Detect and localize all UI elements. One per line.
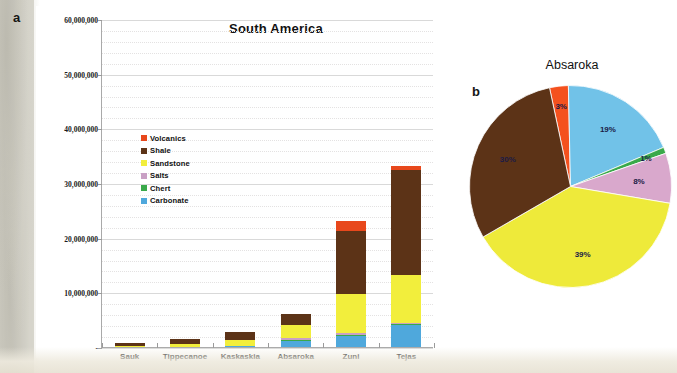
- y-axis-tick-mark: [98, 348, 102, 349]
- y-axis-tick-label: 20,000,000: [36, 235, 98, 244]
- legend-item-salts[interactable]: Salts: [141, 170, 190, 183]
- pie-slice-percent-carbonate: 19%: [600, 124, 616, 133]
- bar-segment-carbonate: [391, 325, 421, 347]
- x-axis-label-tejas: Tejas: [379, 352, 434, 361]
- y-axis-tick-label: -: [36, 344, 98, 353]
- legend-swatch-icon: [141, 160, 147, 166]
- pie-slice-percent-salts: 8%: [633, 176, 645, 185]
- bar-segment-shale: [281, 314, 311, 325]
- bar-chart-legend: VolcanicsShaleSandstoneSaltsChertCarbona…: [141, 132, 190, 207]
- x-axis-tick-mark: [213, 343, 214, 348]
- x-axis-label-zuni: Zuni: [323, 352, 378, 361]
- bar-column[interactable]: [336, 221, 366, 347]
- pie-chart-panel: Absaroka 3%19%1%8%39%30%: [442, 56, 677, 316]
- legend-label: Salts: [150, 171, 169, 180]
- pie-chart: 3%19%1%8%39%30%: [468, 84, 673, 289]
- x-axis-tick-mark: [268, 343, 269, 348]
- bar-segment-sandstone: [115, 346, 145, 347]
- x-axis-label-sauk: Sauk: [102, 352, 157, 361]
- legend-label: Shale: [150, 146, 171, 155]
- x-axis-tick-mark: [323, 343, 324, 348]
- y-axis-tick-label: 10,000,000: [36, 289, 98, 298]
- pie-chart-title: Absaroka: [492, 58, 652, 72]
- bar-segment-shale: [391, 170, 421, 275]
- pie-slice-percent-shale: 30%: [500, 154, 516, 163]
- legend-label: Chert: [150, 184, 170, 193]
- legend-swatch-icon: [141, 198, 147, 204]
- legend-swatch-icon: [141, 185, 147, 191]
- bar-segment-carbonate: [281, 341, 311, 347]
- bar-column[interactable]: [225, 332, 255, 347]
- legend-swatch-icon: [141, 173, 147, 179]
- legend-item-shale[interactable]: Shale: [141, 145, 190, 158]
- pie-svg: [468, 84, 673, 289]
- bar-segment-shale: [336, 231, 366, 294]
- x-axis-tick-mark: [434, 343, 435, 348]
- pie-slice-percent-sandstone: 39%: [575, 250, 591, 259]
- x-axis-tick-mark: [102, 343, 103, 348]
- bar-segment-sandstone: [336, 294, 366, 332]
- legend-item-carbonate[interactable]: Carbonate: [141, 195, 190, 208]
- bar-column[interactable]: [170, 339, 200, 347]
- y-axis-tick-label: 30,000,000: [36, 180, 98, 189]
- pie-slice-percent-volcanics: 3%: [555, 102, 567, 111]
- panel-letter-a: a: [13, 10, 20, 25]
- bar-column[interactable]: [281, 314, 311, 347]
- legend-label: Carbonate: [150, 196, 188, 205]
- legend-label: Sandstone: [150, 159, 190, 168]
- bar-column[interactable]: [115, 343, 145, 347]
- bar-segment-volcanics: [336, 221, 366, 231]
- bar-chart-panel: South America -10,000,00020,000,00030,00…: [36, 6, 441, 358]
- y-axis-tick-label: 50,000,000: [36, 71, 98, 80]
- legend-swatch-icon: [141, 135, 147, 141]
- gridline-major: [102, 348, 433, 349]
- figure-page: a South America -10,000,00020,000,00030,…: [0, 0, 677, 373]
- x-axis-tick-mark: [379, 343, 380, 348]
- bar-segment-carbonate: [336, 336, 366, 347]
- legend-item-sandstone[interactable]: Sandstone: [141, 157, 190, 170]
- pie-slice-percent-chert: 1%: [640, 153, 652, 162]
- bar-segment-carbonate: [225, 346, 255, 347]
- legend-item-chert[interactable]: Chert: [141, 182, 190, 195]
- x-axis-label-tippecanoe: Tippecanoe: [157, 352, 212, 361]
- x-axis-label-kaskaskia: Kaskaskia: [213, 352, 268, 361]
- x-axis-label-absaroka: Absaroka: [268, 352, 323, 361]
- legend-swatch-icon: [141, 148, 147, 154]
- y-axis-tick-label: 60,000,000: [36, 16, 98, 25]
- x-axis-tick-mark: [157, 343, 158, 348]
- bar-column[interactable]: [391, 166, 421, 347]
- legend-label: Volcanics: [150, 134, 186, 143]
- y-axis-tick-label: 40,000,000: [36, 125, 98, 134]
- legend-item-volcanics[interactable]: Volcanics: [141, 132, 190, 145]
- bar-segment-sandstone: [281, 325, 311, 338]
- bar-segment-sandstone: [170, 344, 200, 347]
- bar-segment-shale: [225, 332, 255, 340]
- bar-segment-sandstone: [391, 275, 421, 324]
